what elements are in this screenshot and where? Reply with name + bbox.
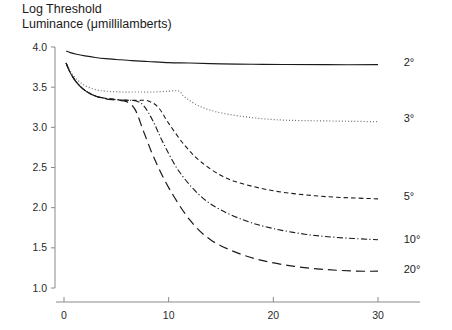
x-tick-label: 10 <box>163 309 175 321</box>
x-tick-label: 0 <box>61 309 67 321</box>
y-tick-label: 3.5 <box>32 81 47 93</box>
x-tick-label: 20 <box>267 309 279 321</box>
series-label-2deg: 2° <box>404 56 415 68</box>
curve-10deg <box>66 63 378 240</box>
x-tick-label: 30 <box>372 309 384 321</box>
plot-area: 1.01.52.02.53.03.54.0 0102030 2°3°5°10°2… <box>0 0 452 330</box>
curve-3deg <box>66 63 378 122</box>
y-tick-label: 3.0 <box>32 121 47 133</box>
x-axis: 0102030 <box>56 297 420 321</box>
series-label-10deg: 10° <box>404 233 421 245</box>
y-tick-label: 2.5 <box>32 161 47 173</box>
y-tick-label: 4.0 <box>32 41 47 53</box>
y-tick-label: 1.0 <box>32 282 47 294</box>
y-tick-label: 1.5 <box>32 241 47 253</box>
chart-figure: Log Threshold Luminance (μmillilamberts)… <box>0 0 452 330</box>
curve-5deg <box>66 63 378 199</box>
series-label-5deg: 5° <box>404 190 415 202</box>
curve-2deg <box>66 51 378 65</box>
series-label-20deg: 20° <box>404 263 421 275</box>
curve-20deg <box>66 63 378 271</box>
series-labels: 2°3°5°10°20° <box>404 56 421 274</box>
y-tick-label: 2.0 <box>32 201 47 213</box>
series-label-3deg: 3° <box>404 112 415 124</box>
data-curves <box>66 51 378 271</box>
y-axis: 1.01.52.02.53.03.54.0 <box>32 41 55 294</box>
